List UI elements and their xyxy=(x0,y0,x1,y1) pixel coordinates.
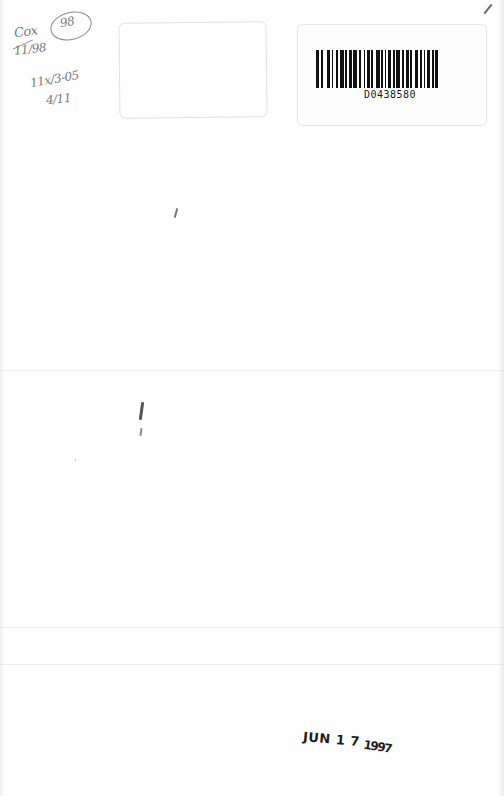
fold-line xyxy=(0,370,504,371)
handwritten-note-cox: Cox xyxy=(13,22,38,40)
endsheet-page: Cox 11/98 98 11x/3-05 4/11 xyxy=(0,0,504,796)
date-stamp-year: 1997 xyxy=(362,738,392,756)
barcode-number: D0438580 xyxy=(340,89,440,100)
date-stamp: JUN 1 71997 xyxy=(303,729,393,752)
handwritten-circled-number: 98 xyxy=(59,14,75,30)
page-right-edge xyxy=(498,0,504,796)
fold-line xyxy=(0,664,504,665)
ink-speck xyxy=(75,459,76,461)
card-pocket-outline xyxy=(119,21,268,119)
ink-speck xyxy=(139,428,142,436)
date-stamp-month-day: JUN 1 7 xyxy=(303,729,361,749)
page-left-edge xyxy=(0,0,4,796)
barcode-icon xyxy=(316,50,459,88)
handwritten-note-circulation: 11x/3-05 xyxy=(29,68,80,90)
handwritten-note-count: 4/11 xyxy=(45,91,71,108)
fold-line xyxy=(0,627,504,628)
pen-mark xyxy=(484,4,493,15)
ink-speck xyxy=(174,208,179,218)
handwritten-note-date: 11/98 xyxy=(13,40,46,57)
ink-speck xyxy=(139,402,144,420)
